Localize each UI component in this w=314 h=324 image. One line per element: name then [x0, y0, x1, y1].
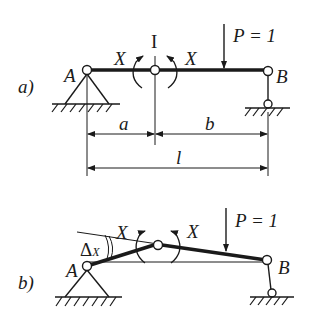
load-label-b: P = 1: [235, 211, 278, 230]
hinge-i-b: [154, 241, 163, 250]
support-b-label: B: [276, 67, 288, 86]
load-text-a: P = 1: [233, 25, 276, 46]
rotation-subscript: X: [92, 245, 99, 259]
support-a-label: A: [64, 66, 76, 85]
rotation-arc-outer: [105, 235, 109, 259]
panel-a-label: a): [18, 77, 34, 96]
hinge-a-b: [83, 262, 92, 271]
support-b-label-b: B: [278, 258, 290, 277]
pinned-support-a: [52, 66, 120, 113]
hinge-a: [83, 66, 92, 75]
hinge-b-b: [263, 256, 272, 265]
panel-a: [52, 24, 290, 176]
moment-arrow-left-a: [133, 56, 143, 88]
hinge-i: [151, 66, 160, 75]
moment-left-label-b: X: [116, 223, 128, 242]
section-i-label: I: [151, 32, 157, 51]
dim-l-label: l: [176, 148, 181, 167]
rotation-arc-inner: [109, 236, 113, 258]
rotation-label: ΔX: [80, 240, 100, 259]
moment-left-label-a: X: [114, 49, 126, 68]
rotation-symbol: Δ: [80, 239, 92, 260]
moment-right-label-b: X: [187, 222, 199, 241]
load-label-a: P = 1: [233, 26, 276, 45]
moment-arrow-right-a: [167, 56, 177, 88]
moment-right-label-a: X: [185, 49, 197, 68]
dim-a-label: a: [119, 114, 129, 133]
hinge-b: [264, 67, 273, 76]
support-a-label-b: A: [66, 261, 78, 280]
beam-deformed-right: [162, 245, 266, 260]
dim-b-label: b: [205, 114, 215, 133]
panel-b-label: b): [18, 273, 34, 292]
